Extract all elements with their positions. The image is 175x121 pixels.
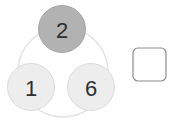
node-top[interactable]: 2 xyxy=(39,6,86,53)
puzzle-diagram: 2 1 6 xyxy=(0,0,175,121)
node-bottom-left[interactable]: 1 xyxy=(8,64,55,111)
node-bottom-right[interactable]: 6 xyxy=(68,64,115,111)
puzzle-canvas: 2 1 6 xyxy=(0,0,175,121)
node-bottom-right-label: 6 xyxy=(85,76,97,101)
node-top-label: 2 xyxy=(56,18,68,43)
answer-box-group[interactable] xyxy=(133,48,166,81)
node-bottom-left-label: 1 xyxy=(25,76,37,101)
answer-box[interactable] xyxy=(133,48,166,81)
